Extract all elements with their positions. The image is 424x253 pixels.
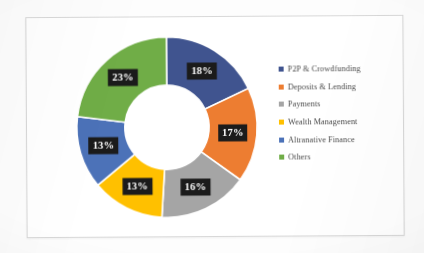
legend-swatch-icon (279, 67, 284, 72)
chart-legend: P2P & CrowdfundingDeposits & LendingPaym… (279, 60, 396, 166)
legend-swatch-icon (279, 84, 284, 89)
legend-swatch-icon (279, 155, 284, 160)
legend-item-label: Others (288, 153, 310, 162)
slice-data-label: 13% (122, 178, 152, 195)
legend-item-label: Altranative Finance (288, 135, 355, 144)
donut-chart: 18%17%16%13%13%23% (68, 29, 265, 226)
scanned-page: 18%17%16%13%13%23% P2P & CrowdfundingDep… (0, 0, 424, 253)
chart-card: 18%17%16%13%13%23% P2P & CrowdfundingDep… (25, 15, 404, 238)
legend-item[interactable]: Others (279, 148, 395, 166)
slice-data-label: 23% (108, 69, 138, 86)
legend-swatch-icon (279, 102, 284, 107)
legend-item-label: Payments (288, 100, 321, 109)
legend-swatch-icon (279, 120, 284, 125)
slice-data-label: 18% (187, 63, 217, 80)
slice-data-label: 16% (181, 178, 211, 195)
legend-item-label: Deposits & Lending (288, 82, 356, 91)
legend-item[interactable]: Altranative Finance (279, 130, 395, 148)
legend-item[interactable]: Deposits & Lending (279, 77, 395, 95)
legend-item-label: Wealth Management (288, 117, 358, 126)
legend-item[interactable]: Payments (279, 95, 395, 113)
legend-item[interactable]: Wealth Management (279, 113, 395, 131)
legend-item[interactable]: P2P & Crowdfunding (279, 60, 395, 78)
slice-data-label: 17% (218, 125, 248, 142)
slice-data-label: 13% (89, 138, 119, 155)
donut-center-hole (125, 85, 210, 170)
legend-swatch-icon (279, 137, 284, 142)
legend-item-label: P2P & Crowdfunding (288, 64, 361, 73)
